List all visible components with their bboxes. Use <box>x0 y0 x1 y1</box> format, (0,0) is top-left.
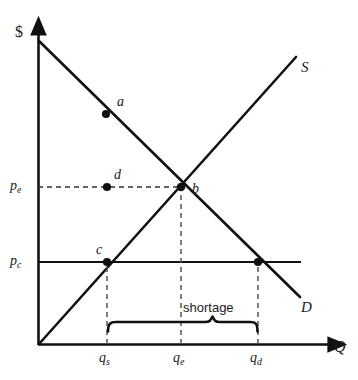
point-d-label: d <box>114 168 121 182</box>
point-c-dot <box>103 258 111 266</box>
qty-equilibrium-label: qe <box>173 351 184 367</box>
qty-demanded-symbol: q <box>250 350 257 365</box>
price-ceiling-subscript: c <box>17 259 21 270</box>
price-equilibrium-subscript: e <box>17 184 21 195</box>
point-c-label: c <box>96 243 102 257</box>
qty-equilibrium-subscript: e <box>180 356 184 367</box>
qty-supplied-subscript: s <box>106 356 110 367</box>
qty-supplied-label: qs <box>99 351 110 367</box>
shortage-bracket <box>108 317 258 332</box>
demand-curve-label: D <box>301 300 312 315</box>
y-axis-label: $ <box>15 24 23 40</box>
shortage-label: shortage <box>183 301 234 314</box>
point-a-dot <box>102 110 110 118</box>
point-a-label: a <box>117 95 124 109</box>
demand-curve <box>39 41 300 297</box>
supply-curve-label: S <box>301 60 309 75</box>
qty-demanded-label: qd <box>250 351 262 367</box>
supply-demand-chart: $ Q S D pe pc qs qe qd a b c d shortage <box>0 0 358 380</box>
x-axis-label: Q <box>334 339 346 355</box>
supply-curve <box>39 57 296 344</box>
price-equilibrium-label: pe <box>10 179 21 195</box>
point-b-dot <box>177 183 186 192</box>
qty-demanded-subscript: d <box>257 356 262 367</box>
point-b-label: b <box>192 182 199 196</box>
price-equilibrium-symbol: p <box>10 178 17 193</box>
qty-equilibrium-symbol: q <box>173 350 180 365</box>
price-ceiling-symbol: p <box>10 253 17 268</box>
price-ceiling-label: pc <box>10 254 21 270</box>
qty-supplied-symbol: q <box>99 350 106 365</box>
chart-canvas <box>0 0 358 380</box>
point-d-dot <box>103 183 111 191</box>
point-qd-dot <box>254 258 262 266</box>
